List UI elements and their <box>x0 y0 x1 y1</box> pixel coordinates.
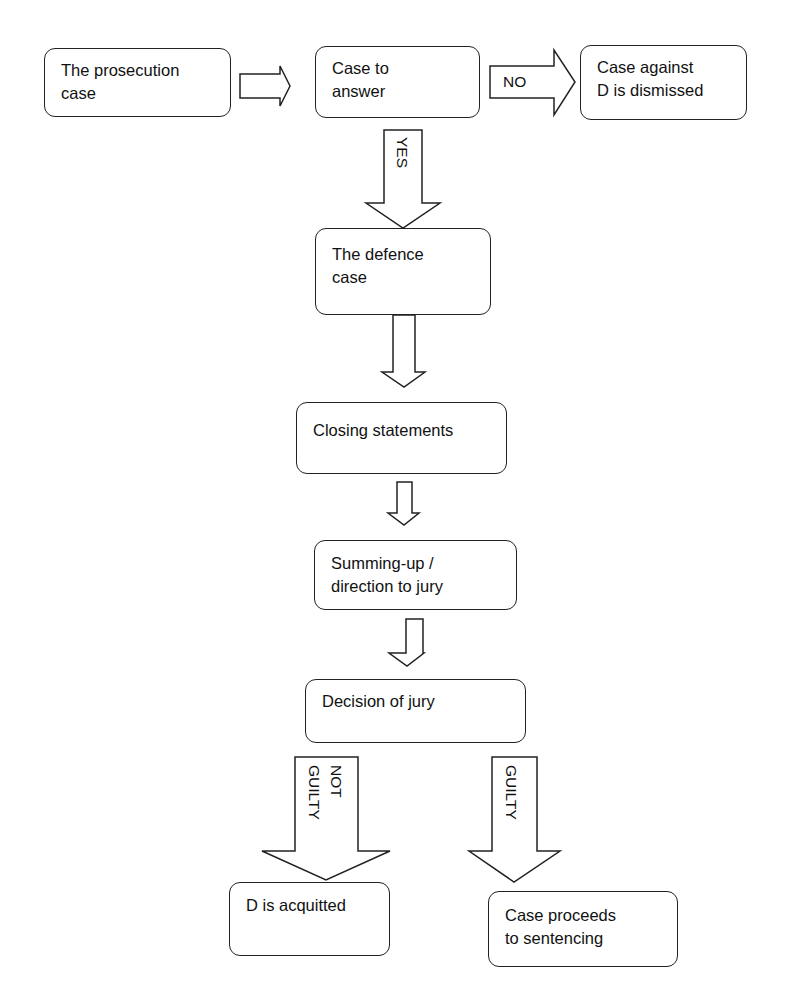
node-sentencing: Case proceeds to sentencing <box>488 891 678 967</box>
edge-label-not-guilty: GUILTY <box>305 765 323 820</box>
node-text: to sentencing <box>505 927 661 950</box>
node-text: The prosecution <box>61 59 214 82</box>
node-decision-of-jury: Decision of jury <box>305 679 526 743</box>
node-text: Case against <box>597 56 730 79</box>
node-text: Case proceeds <box>505 904 661 927</box>
arrow-closing-to-summing <box>388 482 419 525</box>
edge-label-not: NOT <box>327 765 345 798</box>
node-defence-case: The defence case <box>315 228 491 315</box>
arrow-prosecution-to-case <box>240 66 290 106</box>
node-text: D is dismissed <box>597 79 730 102</box>
arrow-defence-to-closing <box>382 315 425 387</box>
arrow-not-guilty <box>262 757 390 880</box>
edge-label-yes: YES <box>393 137 411 168</box>
node-summing-up: Summing-up / direction to jury <box>314 540 517 610</box>
node-d-acquitted: D is acquitted <box>229 882 390 956</box>
node-case-to-answer: Case to answer <box>315 46 480 118</box>
node-closing-statements: Closing statements <box>296 402 507 474</box>
node-text: Decision of jury <box>322 690 509 713</box>
node-text: Case to <box>332 57 463 80</box>
node-text: Closing statements <box>313 419 490 442</box>
node-case-dismissed: Case against D is dismissed <box>580 45 747 120</box>
node-text: The defence <box>332 243 474 266</box>
node-text: D is acquitted <box>246 894 373 917</box>
node-text: answer <box>332 80 463 103</box>
edge-label-no: NO <box>503 73 526 91</box>
edge-label-guilty: GUILTY <box>502 765 520 820</box>
node-text: case <box>61 82 214 105</box>
node-text: case <box>332 266 474 289</box>
node-text: Summing-up / <box>331 552 500 575</box>
node-text: direction to jury <box>331 575 500 598</box>
arrow-summing-to-decision <box>389 619 424 666</box>
node-prosecution-case: The prosecution case <box>44 48 231 117</box>
